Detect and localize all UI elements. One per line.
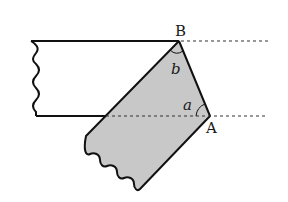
strip-torn-left-edge <box>31 41 39 116</box>
point-b-label: B <box>175 22 186 40</box>
folded-strip-diagram: B A b a <box>0 0 288 202</box>
angle-a-label: a <box>183 96 192 114</box>
point-a-label: A <box>205 119 217 137</box>
angle-b-label: b <box>171 60 181 78</box>
